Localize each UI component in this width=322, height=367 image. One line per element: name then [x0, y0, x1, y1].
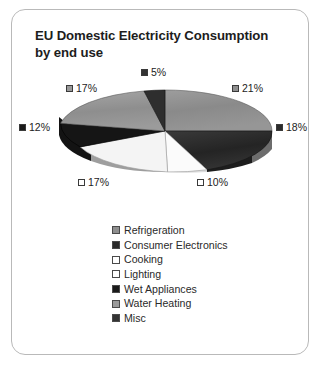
- legend-swatch-consumer-electronics: [112, 241, 120, 249]
- legend-swatch-lighting: [112, 270, 120, 278]
- chart-title: EU Domestic Electricity Consumption by e…: [35, 28, 297, 62]
- legend-swatch-misc: [112, 314, 120, 322]
- chart-title-line-1: EU Domestic Electricity Consumption: [35, 28, 297, 45]
- legend-item-cooking[interactable]: Cooking: [112, 253, 228, 266]
- legend-swatch-water-heating: [112, 300, 120, 308]
- legend-item-water-heating[interactable]: Water Heating: [112, 297, 228, 310]
- legend-label-lighting: Lighting: [124, 268, 161, 281]
- legend-item-refrigeration[interactable]: Refrigeration: [112, 224, 228, 237]
- legend-item-consumer-electronics[interactable]: Consumer Electronics: [112, 239, 228, 252]
- chart-title-line-2: by end use: [35, 45, 297, 62]
- legend-item-wet-appliances[interactable]: Wet Appliances: [112, 283, 228, 296]
- data-label-refrigeration: 21%: [232, 82, 263, 94]
- legend-item-lighting[interactable]: Lighting: [112, 268, 228, 281]
- data-label-swatch-refrigeration: [232, 85, 239, 92]
- data-label-swatch-water-heating: [66, 85, 73, 92]
- data-label-swatch-misc: [141, 69, 148, 76]
- data-label-cooking: 17%: [78, 176, 109, 188]
- data-label-swatch-lighting: [197, 179, 204, 186]
- data-label-swatch-cooking: [78, 179, 85, 186]
- legend-label-misc: Misc: [124, 312, 146, 325]
- chart-legend: Refrigeration Consumer Electronics Cooki…: [112, 224, 228, 325]
- data-label-water-heating: 17%: [66, 82, 97, 94]
- legend-swatch-cooking: [112, 256, 120, 264]
- data-label-consumer-electronics: 18%: [276, 121, 307, 133]
- data-label-misc: 5%: [141, 66, 166, 78]
- legend-swatch-refrigeration: [112, 226, 120, 234]
- legend-swatch-wet-appliances: [112, 285, 120, 293]
- legend-label-water-heating: Water Heating: [124, 297, 191, 310]
- data-label-swatch-wet-appliances: [19, 124, 26, 131]
- legend-item-misc[interactable]: Misc: [112, 312, 228, 325]
- data-label-swatch-consumer-electronics: [276, 124, 283, 131]
- legend-label-refrigeration: Refrigeration: [124, 224, 185, 237]
- data-label-lighting: 10%: [197, 176, 228, 188]
- legend-label-cooking: Cooking: [124, 253, 163, 266]
- data-label-wet-appliances: 12%: [19, 121, 50, 133]
- legend-label-wet-appliances: Wet Appliances: [124, 283, 197, 296]
- legend-label-consumer-electronics: Consumer Electronics: [124, 239, 228, 252]
